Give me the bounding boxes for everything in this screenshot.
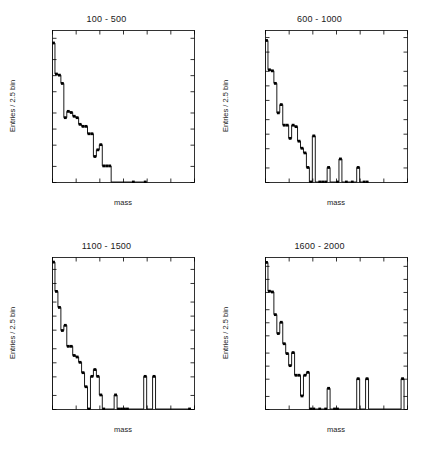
x-axis-label: mass xyxy=(265,425,407,434)
panel-title: 1600 - 2000 xyxy=(213,241,426,251)
plot-area: 0204060801001201251020501002005001000 xyxy=(265,30,407,182)
data-point-markers xyxy=(52,42,147,183)
data-point-markers xyxy=(265,261,404,410)
plot-svg: 0204060801001201251020501002005001000 xyxy=(265,30,408,183)
plot-svg: 020406080100120125102050100200500 xyxy=(52,30,195,183)
plot-svg: 0204060801001201251020501002005001000 xyxy=(52,257,195,410)
y-axis-label: Entries / 2.5 bin xyxy=(7,257,19,409)
panel-1100-1500: 1100 - 1500 Entries / 2.5 bin 0204060801… xyxy=(0,227,213,453)
histogram-step-line xyxy=(265,40,369,182)
panel-title: 1100 - 1500 xyxy=(0,241,213,251)
panel-title: 100 - 500 xyxy=(0,14,213,24)
y-axis-label: Entries / 2.5 bin xyxy=(220,30,232,182)
x-axis-label: mass xyxy=(265,198,407,207)
panel-600-1000: 600 - 1000 Entries / 2.5 bin 02040608010… xyxy=(213,0,426,226)
y-axis-label: Entries / 2.5 bin xyxy=(220,257,232,409)
panel-1600-2000: 1600 - 2000 Entries / 2.5 bin 0204060801… xyxy=(213,227,426,453)
histogram-step-line xyxy=(265,262,404,409)
histogram-step-line xyxy=(52,43,147,182)
plot-area: 0204060801001201251020501002005001000200… xyxy=(265,257,407,409)
y-axis-label: Entries / 2.5 bin xyxy=(7,30,19,182)
plot-area: 020406080100120125102050100200500 xyxy=(52,30,194,182)
panel-100-500: 100 - 500 Entries / 2.5 bin 020406080100… xyxy=(0,0,213,226)
data-point-markers xyxy=(265,39,368,183)
data-point-markers xyxy=(52,261,191,410)
plot-area: 0204060801001201251020501002005001000 xyxy=(52,257,194,409)
histogram-step-line xyxy=(52,262,191,409)
x-axis-label: mass xyxy=(52,425,194,434)
panel-title: 600 - 1000 xyxy=(213,14,426,24)
histogram-figure: 100 - 500 Entries / 2.5 bin 020406080100… xyxy=(0,0,426,453)
plot-svg: 0204060801001201251020501002005001000200… xyxy=(265,257,408,410)
x-axis-label: mass xyxy=(52,198,194,207)
